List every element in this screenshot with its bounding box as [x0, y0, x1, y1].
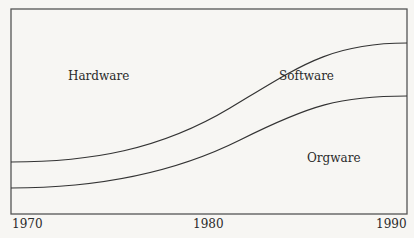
software-label: Software: [279, 69, 334, 83]
orgware-label: Orgware: [307, 151, 361, 165]
software-orgware-boundary: [11, 96, 407, 188]
hardware-label: Hardware: [68, 69, 129, 83]
tick-1970: 1970: [12, 217, 43, 231]
frame: [11, 9, 407, 214]
tick-1990: 1990: [376, 217, 407, 231]
hardware-software-boundary: [11, 43, 407, 162]
chart-svg: [0, 0, 414, 238]
tick-1980: 1980: [193, 217, 224, 231]
